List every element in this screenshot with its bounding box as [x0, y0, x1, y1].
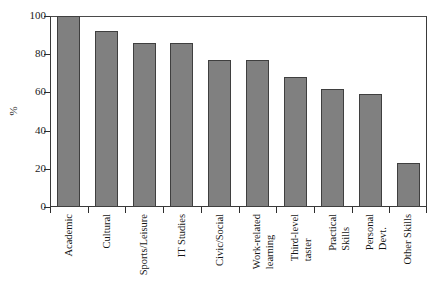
x-axis-category-label-text: Civic/Social	[214, 214, 226, 266]
x-axis-category-label: Civic/Social	[201, 214, 239, 303]
x-axis-ticks	[50, 207, 427, 214]
bar	[246, 60, 269, 207]
x-axis-tick-mark	[239, 207, 240, 213]
x-axis-category-label-text: Cultural	[101, 214, 113, 248]
x-axis-category-label-text: PersonalDevt.	[364, 214, 376, 250]
x-axis-tick-mark	[50, 207, 51, 213]
x-axis-category-label: Sports/Leisure	[125, 214, 163, 303]
x-axis-tick-mark	[88, 207, 89, 213]
x-axis-tick-mark	[125, 207, 126, 213]
bar	[359, 94, 382, 207]
x-axis-category-label-line2: learning	[264, 235, 276, 269]
y-axis-tick-label: 20	[20, 163, 46, 174]
bar	[57, 16, 80, 207]
bar	[321, 89, 344, 207]
y-axis-tick-label: 60	[20, 86, 46, 97]
bar	[95, 31, 118, 207]
x-axis-tick-mark	[276, 207, 277, 213]
x-axis-tick-mark	[352, 207, 353, 213]
x-axis-category-label-text: IT Studies	[176, 214, 188, 257]
x-axis-category-label: Academic	[50, 214, 88, 303]
x-axis-category-label: Cultural	[88, 214, 126, 303]
bar	[397, 163, 420, 207]
x-axis-category-label: Other Skills	[389, 214, 427, 303]
x-axis-category-labels: AcademicCulturalSports/LeisureIT Studies…	[50, 214, 427, 303]
x-axis-category-label-text: Work-relatedlearning	[251, 214, 263, 269]
x-axis-category-label: PracticalSkills	[314, 214, 352, 303]
x-axis-category-label: Third-leveltaster	[276, 214, 314, 303]
x-axis-category-label: Work-relatedlearning	[239, 214, 277, 303]
x-axis-category-label-text: Other Skills	[402, 214, 414, 264]
bar	[208, 60, 231, 207]
bar	[170, 43, 193, 207]
y-axis-tick-label: 40	[20, 125, 46, 136]
x-axis-tick-mark	[163, 207, 164, 213]
x-axis-category-label-line2: taster	[302, 238, 314, 261]
x-axis-category-label-line2: Skills	[340, 227, 352, 251]
bar	[133, 43, 156, 207]
y-axis-tick-labels: 020406080100	[18, 0, 46, 215]
bars-layer	[50, 16, 427, 207]
x-axis-category-label: IT Studies	[163, 214, 201, 303]
x-axis-tick-mark	[389, 207, 390, 213]
x-axis-category-label-text: Sports/Leisure	[138, 214, 150, 275]
y-axis-tick-label: 100	[20, 10, 46, 21]
x-axis-category-label: PersonalDevt.	[352, 214, 390, 303]
bar	[284, 77, 307, 207]
x-axis-category-label-text: Third-leveltaster	[289, 214, 301, 261]
x-axis-category-label-text: Academic	[63, 214, 75, 257]
bar-chart: % 020406080100 AcademicCulturalSports/Le…	[0, 0, 442, 303]
x-axis-category-label-text: PracticalSkills	[327, 214, 339, 251]
x-axis-tick-mark	[201, 207, 202, 213]
y-axis-tick-label: 0	[20, 201, 46, 212]
y-axis-tick-label: 80	[20, 48, 46, 59]
x-axis-category-label-line2: Devt.	[377, 227, 389, 250]
x-axis-tick-mark	[426, 207, 427, 213]
x-axis-tick-mark	[314, 207, 315, 213]
